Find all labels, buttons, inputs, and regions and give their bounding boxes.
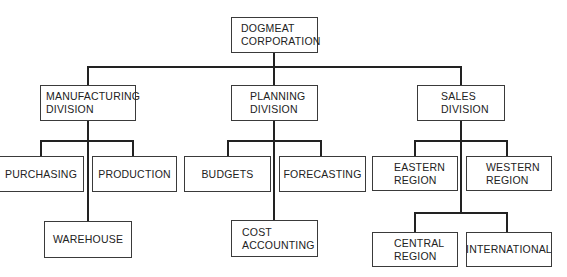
node-label: BUDGETS — [201, 168, 253, 181]
connector-division-bus — [87, 66, 462, 68]
connector-manufacturing-up — [87, 66, 89, 85]
connector-planning-down — [273, 120, 275, 220]
node-label: PURCHASING — [5, 168, 77, 181]
node-label: WESTERN — [486, 161, 540, 174]
connector-purchasing-up — [40, 140, 42, 156]
connector-manufacturing-bus — [40, 140, 134, 142]
node-label: MANUFACTURING — [46, 90, 140, 103]
node-sales-division: SALES DIVISION — [417, 85, 505, 121]
node-label: INTERNATIONAL — [466, 243, 552, 256]
node-cost-accounting: COST ACCOUNTING — [231, 220, 318, 257]
connector-western-up — [506, 140, 508, 156]
node-label: REGION — [394, 174, 437, 187]
node-label: EASTERN — [394, 161, 445, 174]
node-label: DOGMEAT — [241, 22, 295, 35]
node-label: COST — [242, 226, 272, 239]
node-label: REGION — [394, 250, 437, 263]
node-dogmeat-corporation: DOGMEAT CORPORATION — [231, 17, 318, 53]
node-western-region: WESTERN REGION — [466, 156, 552, 191]
node-international: INTERNATIONAL — [466, 232, 552, 267]
node-label: DIVISION — [250, 103, 298, 116]
node-planning-division: PLANNING DIVISION — [231, 85, 318, 121]
connector-forecasting-up — [320, 140, 322, 156]
node-manufacturing-division: MANUFACTURING DIVISION — [40, 85, 136, 121]
node-label: WAREHOUSE — [53, 233, 123, 246]
node-label: DIVISION — [46, 103, 94, 116]
connector-sales-bus-upper — [414, 140, 508, 142]
node-label: CENTRAL — [394, 237, 444, 250]
node-label: SALES — [441, 90, 476, 103]
node-purchasing: PURCHASING — [0, 156, 84, 192]
connector-root-down — [273, 52, 275, 85]
connector-production-up — [132, 140, 134, 156]
node-label: REGION — [486, 174, 529, 187]
node-forecasting: FORECASTING — [279, 156, 366, 192]
node-label: ACCOUNTING — [242, 239, 315, 252]
connector-eastern-up — [414, 140, 416, 156]
connector-sales-bus-lower — [414, 212, 508, 214]
node-label: PLANNING — [250, 90, 305, 103]
connector-central-up — [414, 212, 416, 232]
node-warehouse: WAREHOUSE — [44, 221, 132, 258]
connector-sales-down — [460, 120, 462, 214]
node-central-region: CENTRAL REGION — [372, 232, 458, 267]
node-production: PRODUCTION — [92, 156, 177, 192]
node-label: DIVISION — [441, 103, 489, 116]
connector-manufacturing-down — [87, 120, 89, 221]
node-eastern-region: EASTERN REGION — [372, 156, 458, 191]
node-label: FORECASTING — [283, 168, 361, 181]
connector-planning-bus — [227, 140, 322, 142]
org-chart: DOGMEAT CORPORATION MANUFACTURING DIVISI… — [0, 0, 567, 277]
connector-sales-up — [460, 66, 462, 85]
node-label: CORPORATION — [241, 35, 321, 48]
connector-budgets-up — [227, 140, 229, 156]
node-label: PRODUCTION — [98, 168, 171, 181]
connector-international-up — [506, 212, 508, 232]
node-budgets: BUDGETS — [184, 156, 271, 192]
